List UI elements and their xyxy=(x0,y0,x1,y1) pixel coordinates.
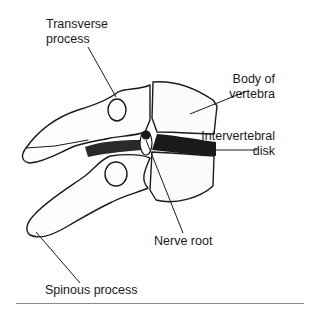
label-transverse-process-1: Transverse xyxy=(46,17,108,31)
upper-posterior-elements xyxy=(23,85,150,163)
leader-spinous-process xyxy=(36,232,80,283)
upper-vertebral-body xyxy=(152,82,217,134)
lower-posterior-elements xyxy=(27,155,150,237)
label-transverse-process-2: process xyxy=(46,32,90,46)
bottom-rule xyxy=(16,303,304,304)
label-spinous-process: Spinous process xyxy=(45,283,137,297)
label-nerve-root: Nerve root xyxy=(154,234,212,248)
label-body-of-vertebra-1: Body of xyxy=(233,72,275,86)
lower-vertebral-body xyxy=(150,152,214,202)
label-intervertebral-disk-2: disk xyxy=(253,144,275,158)
label-body-of-vertebra-2: vertebra xyxy=(229,87,275,101)
nerve-root-dot xyxy=(142,131,151,140)
leader-transverse-process xyxy=(88,47,116,97)
label-intervertebral-disk-1: Intervertebral xyxy=(201,129,275,143)
